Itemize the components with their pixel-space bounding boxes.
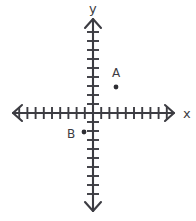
coordinate-axes-svg xyxy=(0,0,196,221)
coordinate-plane-figure: y x A B xyxy=(0,0,196,221)
point-a-dot[interactable] xyxy=(114,85,119,90)
point-b-dot[interactable] xyxy=(82,130,87,135)
x-axis-label: x xyxy=(183,107,191,120)
y-axis-label: y xyxy=(89,2,97,15)
point-a-label: A xyxy=(112,67,120,79)
point-b-label: B xyxy=(67,128,75,140)
